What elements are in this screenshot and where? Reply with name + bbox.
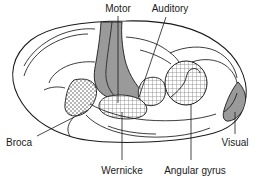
brain-diagram-canvas: Motor Auditory Broca Wernicke Angular gy…: [0, 0, 261, 182]
label-angular-gyrus: Angular gyrus: [164, 165, 226, 176]
label-auditory: Auditory: [152, 3, 189, 14]
brain-diagram: Motor Auditory Broca Wernicke Angular gy…: [0, 0, 261, 182]
label-broca: Broca: [6, 137, 33, 148]
label-wernicke: Wernicke: [101, 165, 143, 176]
label-visual: Visual: [221, 137, 248, 148]
label-motor: Motor: [105, 3, 131, 14]
region-angular-gyrus: [165, 61, 207, 105]
